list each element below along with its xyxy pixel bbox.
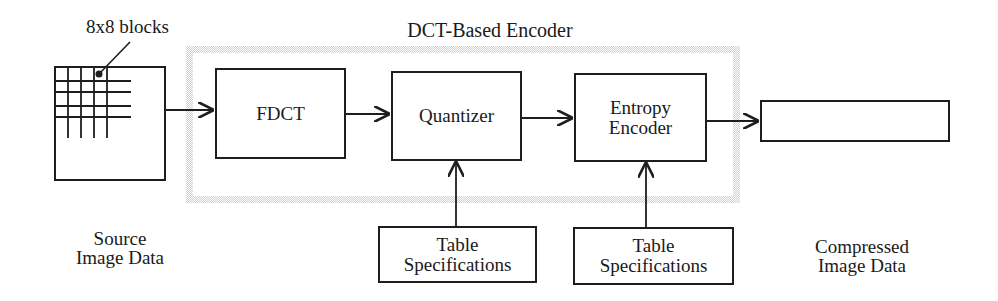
compressed-output-box xyxy=(760,100,950,142)
fdct-label: FDCT xyxy=(256,104,305,124)
entropy-label-line1: Entropy xyxy=(610,98,671,118)
source-image-data-label: Source Image Data xyxy=(55,229,185,267)
compressed-image-data-label: Compressed Image Data xyxy=(797,237,927,275)
source-image-icon xyxy=(55,42,165,180)
table-spec-1-line2: Specifications xyxy=(404,255,512,275)
fdct-block: FDCT xyxy=(215,68,346,159)
table-spec-2-line1: Table xyxy=(633,236,675,256)
entropy-encoder-block: Entropy Encoder xyxy=(574,73,707,162)
source-label-line2: Image Data xyxy=(55,248,185,267)
table-spec-2-line2: Specifications xyxy=(600,256,708,276)
source-label-line1: Source xyxy=(55,229,185,248)
quantizer-label: Quantizer xyxy=(419,106,494,126)
compressed-label-line1: Compressed xyxy=(797,237,927,256)
quantizer-block: Quantizer xyxy=(391,71,522,161)
compressed-label-line2: Image Data xyxy=(797,256,927,275)
entropy-label-line2: Encoder xyxy=(609,118,672,138)
table-spec-entropy-block: Table Specifications xyxy=(573,227,734,285)
table-spec-quantizer-block: Table Specifications xyxy=(378,226,537,283)
table-spec-1-line1: Table xyxy=(437,235,479,255)
